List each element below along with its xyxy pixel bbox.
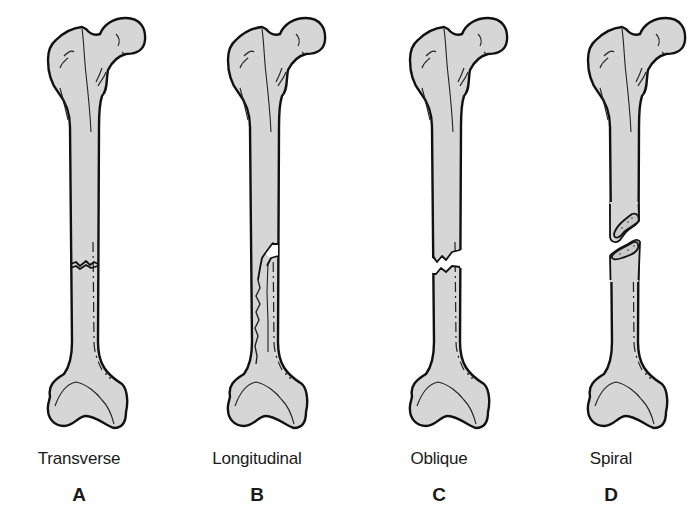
- label-b: B: [172, 484, 342, 506]
- label-d: D: [526, 484, 689, 506]
- caption-spiral: Spiral: [526, 449, 689, 469]
- label-a: A: [0, 484, 164, 506]
- fracture-types-figure: Transverse A Longitudinal B: [0, 0, 689, 522]
- panel-b: Longitudinal B: [178, 0, 348, 522]
- femur-transverse-fracture: [0, 0, 170, 440]
- femur-oblique-fracture: [360, 0, 530, 440]
- caption-oblique: Oblique: [354, 449, 524, 469]
- femur-spiral-fracture: [532, 0, 689, 440]
- caption-longitudinal: Longitudinal: [172, 449, 342, 469]
- caption-transverse: Transverse: [0, 449, 164, 469]
- panel-a: Transverse A: [0, 0, 170, 522]
- panel-d: Spiral D: [532, 0, 689, 522]
- label-c: C: [354, 484, 524, 506]
- panel-c: Oblique C: [360, 0, 530, 522]
- femur-longitudinal-fracture: [178, 0, 348, 440]
